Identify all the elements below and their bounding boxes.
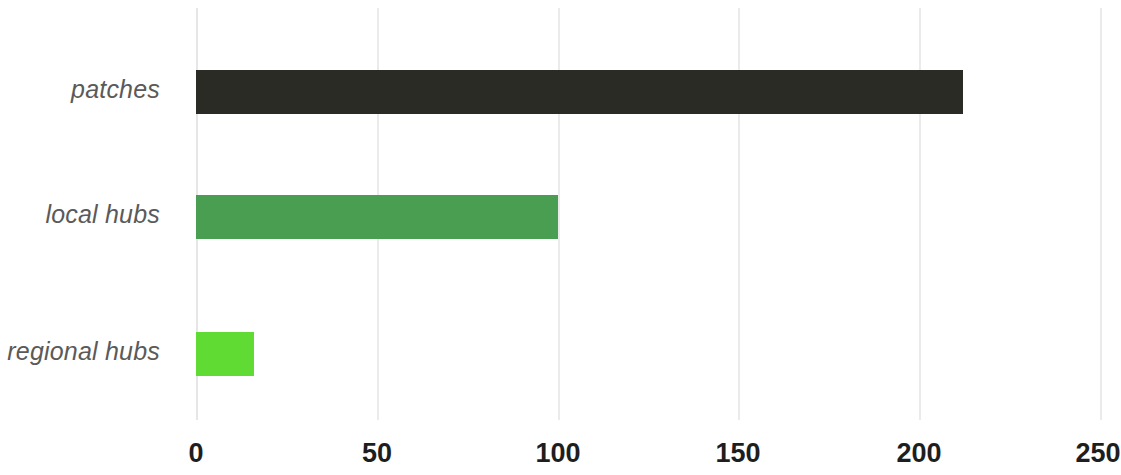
xtick-label-50: 50 [362,438,392,469]
bar-regional-hubs[interactable] [196,332,254,376]
xtick-label-150: 150 [715,438,760,469]
xtick-label-100: 100 [535,438,580,469]
xtick-label-250: 250 [1075,438,1120,469]
xtick-label-200: 200 [896,438,941,469]
bar-local-hubs[interactable] [196,195,558,239]
gridline-250 [1100,8,1102,420]
ytick-label-local-hubs: local hubs [45,200,160,229]
plot-area [196,8,1100,420]
xtick-label-0: 0 [188,438,203,469]
ytick-label-regional-hubs: regional hubs [7,337,160,366]
bar-patches[interactable] [196,70,963,114]
ytick-label-patches: patches [71,75,160,104]
